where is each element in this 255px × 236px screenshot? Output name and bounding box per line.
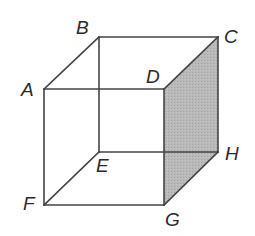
vertex-label-a: A	[20, 79, 34, 100]
vertex-label-b: B	[76, 17, 89, 38]
vertex-label-e: E	[96, 155, 109, 176]
cube-diagram: A B C D E F G H	[0, 0, 255, 236]
vertex-label-f: F	[23, 193, 36, 214]
vertex-label-g: G	[165, 209, 180, 230]
vertex-label-h: H	[225, 143, 239, 164]
vertex-label-d: D	[146, 66, 160, 87]
edge-ab	[44, 37, 99, 89]
edge-ef	[44, 152, 99, 205]
vertex-label-c: C	[224, 26, 238, 47]
